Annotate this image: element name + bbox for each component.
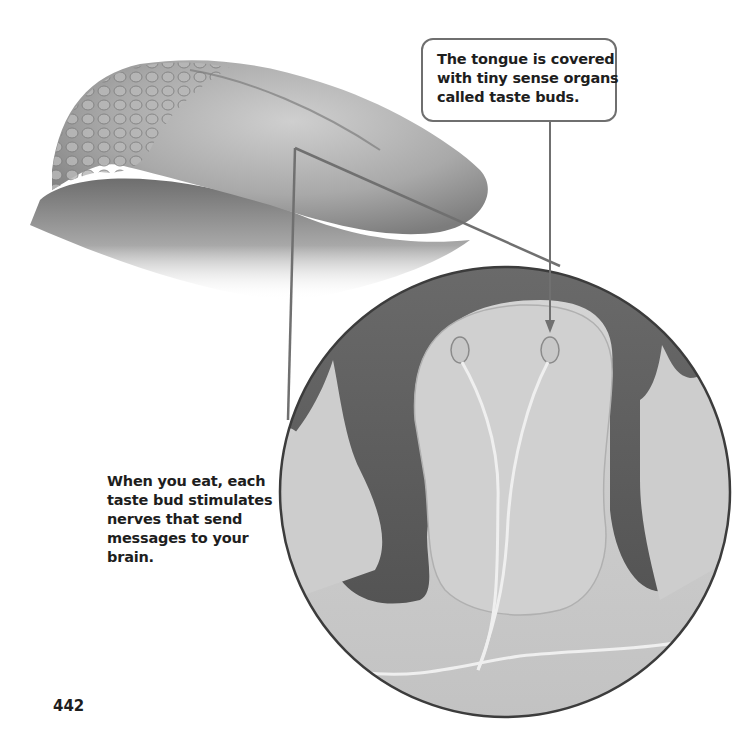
- tongue-illustration: [0, 0, 739, 738]
- callout-taste-buds: The tongue is covered with tiny sense or…: [421, 38, 617, 122]
- caption-nerves: When you eat, each taste bud stimulates …: [107, 472, 297, 567]
- caption-line: nerves that send: [107, 510, 297, 529]
- magnified-taste-bud-view: [280, 265, 730, 725]
- caption-line: When you eat, each: [107, 472, 297, 491]
- callout-line: called taste buds.: [437, 88, 605, 107]
- caption-line: brain.: [107, 548, 297, 567]
- page-number: 442: [53, 697, 84, 715]
- diagram-page: The tongue is covered with tiny sense or…: [0, 0, 739, 738]
- caption-line: messages to your: [107, 529, 297, 548]
- caption-line: taste bud stimulates: [107, 491, 297, 510]
- taste-bud-left: [451, 337, 469, 363]
- taste-bud-right: [541, 337, 559, 363]
- callout-line: with tiny sense organs: [437, 69, 605, 88]
- callout-line: The tongue is covered: [437, 50, 605, 69]
